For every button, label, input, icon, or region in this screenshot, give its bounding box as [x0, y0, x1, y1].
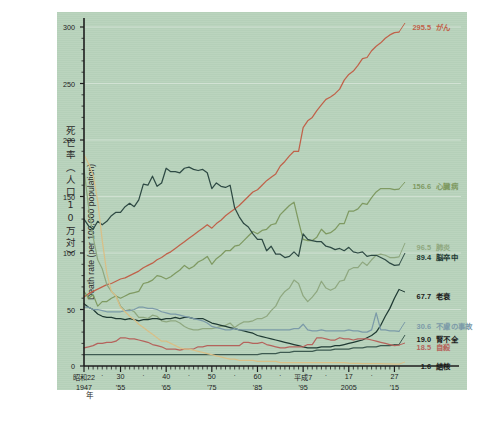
x-tick-label-year: 2005 — [327, 383, 371, 392]
series-end-value: 1.6 — [405, 362, 431, 371]
x-tick-label-era: 平成7 — [281, 372, 325, 382]
x-tick-label-year: '85 — [235, 383, 279, 392]
series-end-label: 89.4脳卒中 — [405, 251, 458, 262]
series-end-value: 18.5 — [405, 343, 431, 352]
series-end-name: 心臓病 — [436, 180, 458, 191]
x-tick-minor-dot: · — [137, 371, 149, 380]
series-end-name: 老衰 — [436, 290, 451, 301]
x-tick-label-era: 50 — [190, 372, 234, 381]
x-tick-label-year: '75 — [190, 383, 234, 392]
series-end-label: 67.7老衰 — [405, 290, 451, 301]
chart-plot-area — [0, 0, 487, 422]
x-tick-label-era: 27 — [372, 372, 416, 381]
y-tick-label: 250 — [49, 80, 75, 89]
x-tick-label-era: 17 — [327, 372, 371, 381]
x-tick-minor-dot: · — [96, 371, 108, 380]
series-end-value: 89.4 — [405, 253, 431, 262]
series-end-value: 295.5 — [405, 23, 431, 32]
x-tick-minor-dot: · — [320, 371, 332, 380]
x-tick-label-year: '15 — [372, 383, 416, 392]
series-end-label: 30.6不慮の事故 — [405, 320, 473, 331]
series-end-name: 不慮の事故 — [436, 320, 473, 331]
series-end-label: 1.6結核 — [405, 360, 451, 371]
x-tick-minor-dot: · — [274, 371, 286, 380]
series-end-name: 自殺 — [436, 341, 451, 352]
x-tick-label-era: 40 — [144, 372, 188, 381]
y-tick-label: 0 — [49, 362, 75, 371]
series-end-label: 18.5自殺 — [405, 341, 451, 352]
x-tick-minor-dot: · — [183, 371, 195, 380]
x-tick-label-era: 60 — [235, 372, 279, 381]
x-axis-label-jp: 年 — [86, 389, 94, 400]
y-tick-label: 50 — [49, 306, 75, 315]
series-end-value: 67.7 — [405, 292, 431, 301]
x-tick-minor-dot: · — [366, 371, 378, 380]
x-tick-label-year: '55 — [99, 383, 143, 392]
y-tick-label: 300 — [49, 23, 75, 32]
series-end-name: がん — [436, 21, 451, 32]
series-end-label: 295.5がん — [405, 21, 451, 32]
y-tick-label: 200 — [49, 136, 75, 145]
series-end-value: 30.6 — [405, 322, 431, 331]
x-tick-label-year: '95 — [281, 383, 325, 392]
y-tick-label: 100 — [49, 249, 75, 258]
x-tick-minor-dot: · — [229, 371, 241, 380]
series-end-label: 156.6心臓病 — [405, 180, 458, 191]
chart-figure: 死亡率（人口10万対） Death rate (per 100,000 popu… — [0, 0, 487, 422]
series-end-name: 脳卒中 — [436, 251, 458, 262]
series-end-value: 156.6 — [405, 182, 431, 191]
series-end-name: 結核 — [436, 360, 451, 371]
y-tick-label: 150 — [49, 193, 75, 202]
x-tick-label-year: '65 — [144, 383, 188, 392]
